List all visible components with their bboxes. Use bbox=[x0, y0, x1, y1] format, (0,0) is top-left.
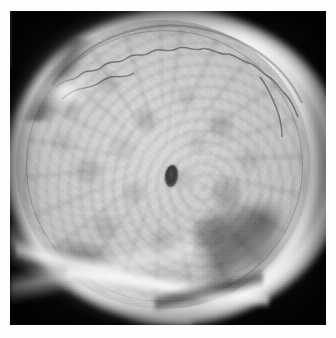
fiducial-line bbox=[10, 11, 12, 68]
radiograph-page bbox=[0, 0, 336, 338]
radiograph-plate bbox=[10, 11, 326, 325]
lower-dark-wedge bbox=[155, 262, 262, 319]
